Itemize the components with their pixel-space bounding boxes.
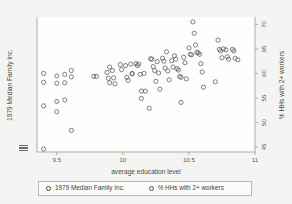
y-tick-label: 45 — [260, 143, 267, 150]
y-tick-label: 50 — [260, 119, 267, 126]
plot-canvas: 9.51010.511 455055606570 average educati… — [0, 0, 292, 204]
open-circle-icon — [149, 186, 154, 191]
y-axis-right-title: % HHs with 2+ workers — [278, 50, 285, 119]
y-tick-label: 55 — [260, 94, 267, 101]
x-axis-title: average education level — [111, 168, 181, 176]
x-tick-label: 10.5 — [183, 156, 196, 163]
y-axis-right-ticks: 455055606570 — [255, 20, 267, 150]
open-circle-icon — [46, 186, 51, 191]
y-tick-label: 70 — [260, 20, 267, 27]
x-axis-ticks: 9.51010.511 — [53, 152, 259, 163]
x-tick-label: 9.5 — [53, 156, 62, 163]
legend-entry-households-two-workers[interactable]: % HHs with 2+ workers — [149, 185, 224, 191]
y-tick-label: 60 — [260, 69, 267, 76]
legend-entry-median-family-income[interactable]: 1979 Median Family Inc. — [46, 185, 125, 191]
y-axis-left-title: 1979 Median Family Inc. — [6, 49, 14, 121]
y-tick-label: 65 — [260, 45, 267, 52]
x-tick-label: 10 — [119, 156, 126, 163]
x-tick-label: 11 — [252, 156, 259, 163]
chart-legend: 1979 Median Family Inc. % HHs with 2+ wo… — [38, 181, 252, 196]
legend-label: % HHs with 2+ workers — [158, 185, 224, 191]
legend-label: 1979 Median Family Inc. — [55, 185, 125, 191]
scatter-chart-figure: 9.51010.511 455055606570 average educati… — [0, 0, 292, 204]
